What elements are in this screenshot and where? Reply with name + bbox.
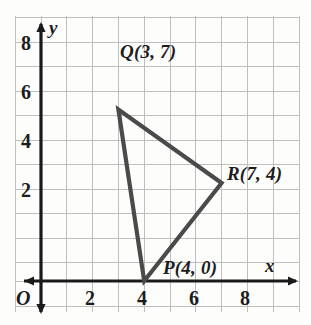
x-tick-label-2: 2	[85, 288, 95, 308]
vertex-label-p: P(4, 0)	[163, 258, 217, 277]
x-tick-label-6: 6	[189, 288, 199, 308]
y-tick-label-4: 4	[21, 131, 31, 151]
y-tick-label-8: 8	[21, 33, 31, 53]
y-tick-label-6: 6	[21, 82, 31, 102]
y-tick-label-2: 2	[21, 180, 31, 200]
x-tick-label-4: 4	[137, 288, 147, 308]
origin-label: O	[16, 288, 30, 308]
y-axis	[36, 22, 45, 314]
vertex-label-r: R(7, 4)	[227, 164, 282, 183]
x-tick-label-8: 8	[240, 288, 250, 308]
coordinate-plane-figure: 8 6 4 2 2 4 6 8 O y x Q(3, 7) R(7, 4) P(…	[0, 0, 311, 325]
vertex-label-q: Q(3, 7)	[120, 42, 176, 61]
y-axis-label: y	[49, 18, 57, 37]
x-axis-label: x	[265, 256, 275, 275]
x-axis	[24, 276, 298, 285]
